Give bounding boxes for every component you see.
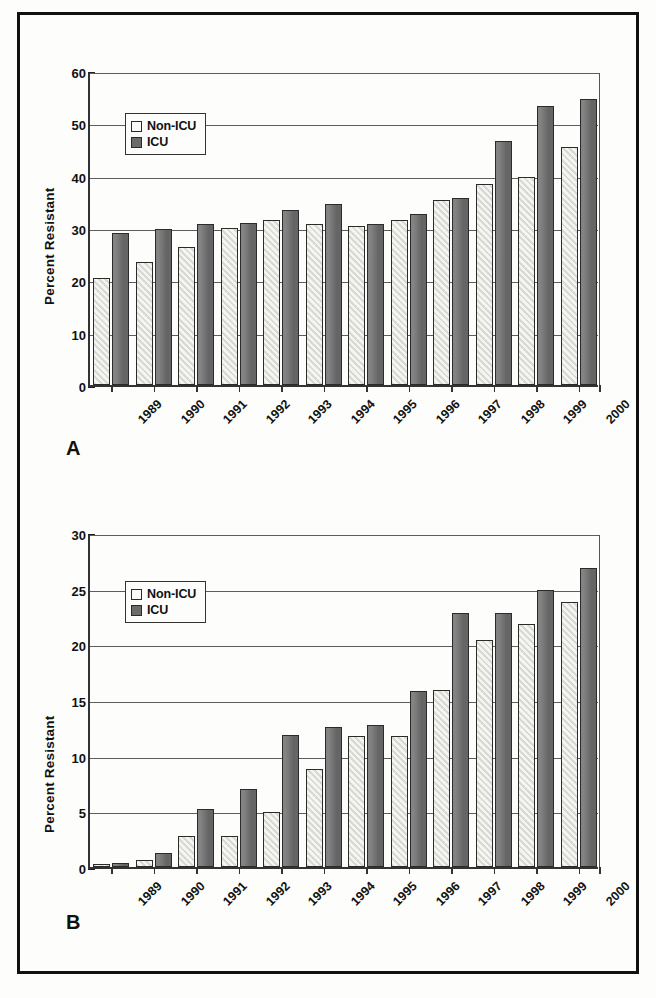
x-tick-label: 1990: [178, 879, 208, 909]
x-tick-label: 1991: [220, 397, 250, 427]
bar-group: [303, 535, 346, 867]
bar-icu: [282, 735, 299, 867]
bar-group: [430, 535, 473, 867]
bar-non-icu: [433, 690, 450, 867]
bar-icu: [367, 224, 384, 385]
bar-icu: [197, 224, 214, 385]
bar-non-icu: [433, 200, 450, 385]
bar-icu: [495, 141, 512, 385]
bar-group: [218, 73, 261, 385]
y-tick-label: 30: [72, 528, 86, 543]
x-tick-mark: [281, 867, 283, 874]
x-tick-label: 1994: [348, 879, 378, 909]
x-tick-mark: [111, 385, 113, 392]
x-tick-label: 1990: [178, 397, 208, 427]
chart-panel-a: Percent Resistant 0102030405060 19891990…: [20, 37, 636, 497]
bar-icu: [112, 863, 129, 867]
bar-icu: [240, 223, 257, 385]
bar-non-icu: [178, 247, 195, 385]
bar-non-icu: [391, 736, 408, 867]
bar-non-icu: [306, 769, 323, 867]
bar-non-icu: [263, 812, 280, 867]
x-tick-label: 1994: [348, 397, 378, 427]
y-tick-label: 5: [79, 806, 86, 821]
legend-label: Non-ICU: [147, 587, 196, 601]
bar-non-icu: [561, 147, 578, 385]
chart-panel-b: Percent Resistant 051015202530 198919901…: [20, 503, 636, 971]
x-tick-mark: [494, 385, 496, 392]
x-tick-label: 1998: [518, 397, 548, 427]
bar-non-icu: [136, 262, 153, 386]
panel-letter-a: A: [66, 437, 80, 460]
x-tick-label: 2000: [603, 879, 633, 909]
x-tick-mark: [599, 867, 601, 874]
bar-non-icu: [306, 224, 323, 385]
x-tick-label: 1989: [135, 879, 165, 909]
legend-label: ICU: [147, 135, 168, 149]
x-tick-label: 1991: [220, 879, 250, 909]
x-tick-label: 1989: [135, 397, 165, 427]
bar-group: [218, 535, 261, 867]
bar-non-icu: [93, 278, 110, 385]
x-tick-label: 1997: [475, 879, 505, 909]
bar-icu: [112, 233, 129, 385]
x-tick-label: 1996: [433, 397, 463, 427]
bar-group: [430, 73, 473, 385]
x-tick-mark: [579, 385, 581, 392]
x-tick-mark: [111, 867, 113, 874]
panel-letter-b: B: [66, 911, 80, 934]
bar-non-icu: [221, 228, 238, 385]
x-tick-mark: [536, 385, 538, 392]
y-tick-label: 60: [72, 66, 86, 81]
y-tick-label: 30: [72, 223, 86, 238]
y-tick-label: 10: [72, 750, 86, 765]
x-tick-mark: [239, 867, 241, 874]
y-tick-label: 40: [72, 170, 86, 185]
bar-non-icu: [263, 220, 280, 385]
bar-group: [388, 73, 431, 385]
bar-non-icu: [221, 836, 238, 867]
x-tick-mark: [409, 867, 411, 874]
legend-label: ICU: [147, 603, 168, 617]
legend-item: Non-ICU: [131, 118, 196, 134]
bar-non-icu: [348, 736, 365, 867]
x-tick-mark: [536, 867, 538, 874]
legend-swatch-icu-icon: [131, 605, 142, 616]
x-tick-label: 1999: [560, 879, 590, 909]
legend-swatch-icu-icon: [131, 137, 142, 148]
bar-non-icu: [561, 602, 578, 867]
bar-group: [558, 73, 601, 385]
x-tick-label: 2000: [603, 397, 633, 427]
x-tick-mark: [579, 867, 581, 874]
bar-group: [388, 535, 431, 867]
y-tick-label: 15: [72, 695, 86, 710]
legend-swatch-non-icu-icon: [131, 589, 142, 600]
x-tick-label: 1995: [390, 397, 420, 427]
legend-b: Non-ICUICU: [125, 581, 206, 623]
x-tick-mark: [494, 867, 496, 874]
bar-icu: [155, 229, 172, 385]
x-tick-label: 1998: [518, 879, 548, 909]
bar-icu: [197, 809, 214, 867]
x-tick-label: 1995: [390, 879, 420, 909]
bar-icu: [452, 613, 469, 867]
figure-border: Percent Resistant 0102030405060 19891990…: [17, 12, 639, 974]
bar-non-icu: [518, 624, 535, 867]
x-tick-mark: [154, 385, 156, 392]
x-tick-label: 1992: [263, 879, 293, 909]
x-tick-mark: [281, 385, 283, 392]
y-tick-label: 20: [72, 275, 86, 290]
bar-non-icu: [93, 864, 110, 867]
x-tick-label: 1993: [305, 397, 335, 427]
x-tick-mark: [239, 385, 241, 392]
y-axis-ticks-a: 0102030405060: [50, 73, 86, 387]
bar-group: [558, 535, 601, 867]
bar-icu: [325, 727, 342, 867]
bar-group: [260, 535, 303, 867]
y-tick-label: 10: [72, 327, 86, 342]
bar-icu: [580, 568, 597, 867]
x-tick-mark: [599, 385, 601, 392]
bar-group: [473, 73, 516, 385]
bar-group: [345, 535, 388, 867]
bar-non-icu: [178, 836, 195, 867]
